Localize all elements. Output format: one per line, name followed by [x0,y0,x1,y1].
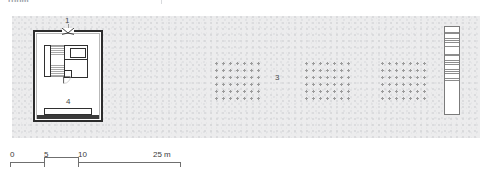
strip-rule-2 [445,46,459,47]
strip-hatch-band-2 [445,55,459,80]
scale-tick-25 [180,162,181,167]
orchard-dot-grid-b [303,60,351,104]
scale-segment-10-25 [78,162,180,163]
strip-rule-3 [445,54,459,55]
interior-door-swing-icon [63,76,71,84]
interior-partition-line [64,59,88,60]
banded-strip-element [444,26,460,115]
orchard-dot-grid-a [213,60,261,104]
strip-hatch-band-1 [445,33,459,46]
courtyard-south-band [44,108,92,115]
scale-segment-5-10 [44,157,78,158]
callout-label-1: 1 [65,16,69,25]
courtyard-south-wall [37,115,99,119]
scale-label-10: 10 [78,150,87,159]
orchard-dot-grid-c [379,60,427,104]
scale-tick-10b [78,162,79,167]
scale-tick-5b [44,162,45,167]
callout-label-4: 4 [66,97,70,106]
scale-label-25: 25 m [153,150,171,159]
entrance-door-swing-icon [61,28,75,35]
strip-rule-1 [445,32,459,33]
scale-label-0: 0 [10,150,14,159]
interior-room-small [70,48,86,58]
strip-rule-4 [445,80,459,81]
scale-segment-0-5 [10,162,44,163]
interior-hatched-band [51,45,64,77]
callout-label-3: 3 [275,73,279,82]
top-caption: room [8,0,29,2]
scale-tick-0 [10,162,11,167]
top-caption-tick [161,0,162,4]
site-plan-figure: room 1 4 3 2 0 5 10 25 m [0,0,492,178]
scale-bar: 0 5 10 25 m [10,150,190,174]
interior-block-west [44,45,51,77]
